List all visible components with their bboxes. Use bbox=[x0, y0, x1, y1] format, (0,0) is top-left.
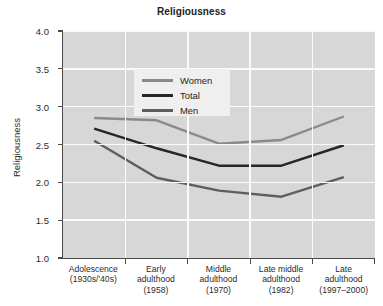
legend-swatch-men bbox=[142, 109, 173, 112]
gridline-vertical bbox=[187, 31, 189, 258]
y-tick-label: 3.0 bbox=[9, 101, 49, 112]
x-axis-labels: Adolescence(1930s/'40s)Earlyadulthood(19… bbox=[62, 264, 375, 295]
gridline-horizontal bbox=[63, 144, 375, 146]
x-axis-label-line: (1970) bbox=[187, 285, 250, 295]
gridline-vertical bbox=[312, 31, 314, 258]
series-line-total bbox=[94, 129, 344, 166]
x-axis-label-1: Earlyadulthood(1958) bbox=[125, 264, 188, 295]
legend-swatch-women bbox=[142, 79, 173, 82]
y-tick-mark bbox=[58, 182, 63, 183]
legend-item-men: Men bbox=[142, 104, 198, 117]
x-axis-label-line: Middle bbox=[187, 264, 250, 274]
x-axis-label-0: Adolescence(1930s/'40s) bbox=[62, 264, 125, 295]
x-axis-label-line: Early bbox=[125, 264, 188, 274]
series-line-men bbox=[94, 141, 344, 197]
x-axis-label-line: adulthood bbox=[187, 274, 250, 284]
y-tick-label: 2.0 bbox=[9, 177, 49, 188]
x-axis-label-4: Lateadulthood(1997–2000) bbox=[312, 264, 375, 295]
plot-area: 1.01.52.02.53.03.54.0 WomenTotalMen bbox=[62, 31, 375, 259]
x-axis-label-line: adulthood bbox=[250, 274, 313, 284]
religiousness-line-chart: Religiousness Religiousness 1.01.52.02.5… bbox=[0, 0, 383, 306]
x-axis-label-line: (1982) bbox=[250, 285, 313, 295]
legend-item-total: Total bbox=[142, 89, 200, 102]
x-axis-label-line: Late middle bbox=[250, 264, 313, 274]
chart-legend: WomenTotalMen bbox=[134, 69, 230, 116]
x-axis-label-line: adulthood bbox=[125, 274, 188, 284]
x-axis-label-3: Late middleadulthood(1982) bbox=[250, 264, 313, 295]
x-axis-label-line: adulthood bbox=[312, 274, 375, 284]
y-tick-label: 2.5 bbox=[9, 139, 49, 150]
gridline-vertical bbox=[125, 31, 127, 258]
chart-title: Religiousness bbox=[0, 6, 383, 17]
gridline-horizontal bbox=[63, 30, 375, 32]
legend-item-women: Women bbox=[142, 74, 212, 87]
gridline-horizontal bbox=[63, 219, 375, 221]
y-tick-mark bbox=[58, 106, 63, 107]
y-tick-mark bbox=[58, 220, 63, 221]
legend-label: Total bbox=[180, 90, 200, 101]
y-tick-label: 1.5 bbox=[9, 215, 49, 226]
x-axis-label-line: Late bbox=[312, 264, 375, 274]
x-axis-label-line: (1997–2000) bbox=[312, 285, 375, 295]
y-tick-mark bbox=[58, 144, 63, 145]
y-tick-mark bbox=[58, 257, 63, 258]
legend-swatch-total bbox=[142, 94, 173, 97]
x-axis-label-line: (1958) bbox=[125, 285, 188, 295]
y-tick-label: 4.0 bbox=[9, 26, 49, 37]
y-tick-mark bbox=[58, 30, 63, 31]
y-tick-label: 1.0 bbox=[9, 253, 49, 264]
y-tick-label: 3.5 bbox=[9, 63, 49, 74]
x-axis-label-line: Adolescence bbox=[62, 264, 125, 274]
legend-label: Men bbox=[180, 105, 198, 116]
gridline-horizontal bbox=[63, 182, 375, 184]
x-axis-label-line: (1930s/'40s) bbox=[62, 274, 125, 284]
y-tick-mark bbox=[58, 68, 63, 69]
x-axis-label-2: Middleadulthood(1970) bbox=[187, 264, 250, 295]
legend-label: Women bbox=[180, 75, 212, 86]
gridline-vertical bbox=[249, 31, 251, 258]
